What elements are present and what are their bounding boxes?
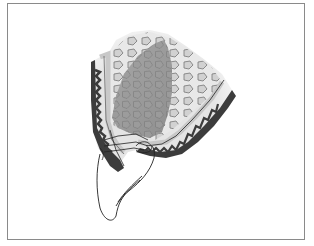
alveolar-bone-illustration (0, 0, 314, 246)
